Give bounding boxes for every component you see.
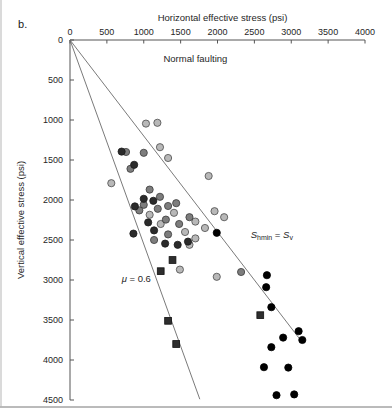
data-point-circle	[150, 236, 157, 243]
data-point-circle	[201, 224, 208, 231]
x-tick-label: 3000	[281, 27, 301, 37]
data-point-circle	[221, 214, 228, 221]
data-point-circle	[285, 364, 292, 371]
data-point-circle	[181, 228, 188, 235]
data-point-circle	[156, 193, 163, 200]
data-point-circle	[238, 268, 245, 275]
data-point-circle	[150, 227, 157, 234]
data-point-circle	[299, 336, 306, 343]
x-tick-label: 1500	[171, 27, 191, 37]
data-point-square	[157, 268, 164, 275]
y-tick-label: 500	[48, 75, 63, 85]
x-tick-label: 4000	[355, 27, 375, 37]
series-light-gray-circles	[108, 119, 228, 280]
data-point-circle	[213, 229, 220, 236]
data-point-circle	[280, 334, 287, 341]
annotation-shmin-equals-sv: Shmin = Sv	[251, 229, 294, 241]
data-point-circle	[295, 328, 302, 335]
data-point-circle	[131, 161, 138, 168]
annotation-normal-faulting: Normal faulting	[163, 53, 227, 64]
data-point-circle	[184, 238, 191, 245]
data-point-circle	[108, 180, 115, 187]
y-tick-label: 3500	[43, 315, 63, 325]
data-point-circle	[131, 203, 138, 210]
y-tick-label: 1000	[43, 115, 63, 125]
data-point-circle	[263, 272, 270, 279]
reference-line-shmin-equals-sv	[70, 40, 302, 342]
data-point-circle	[142, 120, 149, 127]
y-tick-label: 0	[58, 35, 63, 45]
data-point-circle	[146, 211, 153, 218]
series-dark-circles	[118, 148, 192, 248]
annotation-mu-value: μ = 0.6	[121, 273, 151, 284]
data-point-circle	[145, 219, 152, 226]
reference-line-mu-0.6-frictional-limit	[70, 40, 200, 399]
data-point-circle	[291, 391, 298, 398]
data-point-circle	[130, 230, 137, 237]
data-point-circle	[164, 202, 171, 209]
y-tick-label: 1500	[43, 155, 63, 165]
data-point-circle	[205, 172, 212, 179]
data-point-square	[173, 341, 180, 348]
data-point-circle	[170, 209, 177, 216]
data-point-circle	[146, 186, 153, 193]
series-medium-gray-circles	[122, 148, 244, 275]
data-point-square	[165, 317, 172, 324]
figure-panel: b. 0500100015002000250030003500400005001…	[0, 0, 392, 410]
data-point-circle	[192, 235, 199, 242]
scatter-plot: 0500100015002000250030003500400005001000…	[0, 0, 392, 410]
x-tick-label: 2500	[244, 27, 264, 37]
data-point-square	[169, 257, 176, 264]
data-point-square	[257, 312, 264, 319]
data-point-circle	[118, 148, 125, 155]
data-point-circle	[164, 231, 171, 238]
data-point-circle	[268, 304, 275, 311]
series-dark-squares	[157, 257, 263, 348]
data-point-circle	[263, 284, 270, 291]
y-tick-label: 3000	[43, 275, 63, 285]
data-point-circle	[154, 205, 161, 212]
x-tick-label: 500	[99, 27, 114, 37]
data-point-circle	[186, 214, 193, 221]
y-tick-label: 4000	[43, 355, 63, 365]
x-axis-title: Horizontal effective stress (psi)	[158, 12, 288, 23]
y-tick-label: 2500	[43, 235, 63, 245]
x-tick-label: 2000	[207, 27, 227, 37]
x-tick-label: 1000	[134, 27, 154, 37]
data-point-circle	[273, 392, 280, 399]
data-point-circle	[154, 119, 161, 126]
y-tick-label: 4500	[43, 395, 63, 405]
data-point-circle	[162, 240, 169, 247]
data-point-circle	[162, 216, 169, 223]
data-point-circle	[268, 344, 275, 351]
data-point-circle	[140, 195, 147, 202]
data-point-circle	[176, 220, 183, 227]
data-point-circle	[164, 154, 171, 161]
data-point-circle	[150, 197, 157, 204]
data-point-circle	[213, 273, 220, 280]
y-tick-label: 2000	[43, 195, 63, 205]
data-point-circle	[174, 241, 181, 248]
data-point-circle	[156, 144, 163, 151]
data-point-circle	[173, 200, 180, 207]
data-point-circle	[140, 149, 147, 156]
data-point-circle	[260, 364, 267, 371]
y-axis-title: Vertical effective stress (psi)	[15, 161, 26, 279]
x-tick-label: 3500	[318, 27, 338, 37]
data-point-circle	[176, 266, 183, 273]
data-point-circle	[211, 208, 218, 215]
x-tick-label: 0	[67, 27, 72, 37]
